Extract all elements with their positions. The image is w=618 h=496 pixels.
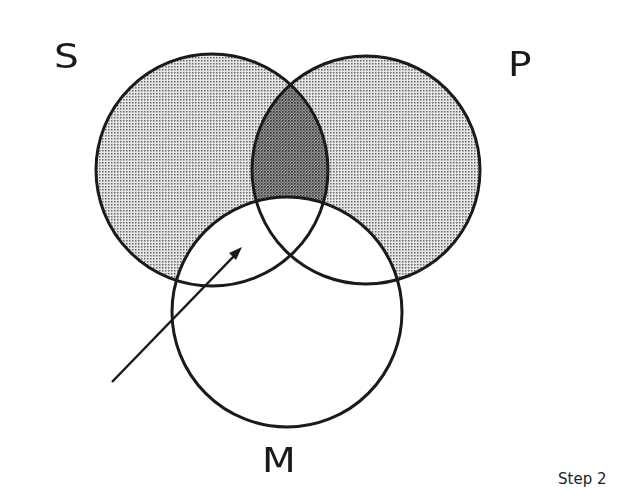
label-p: P (508, 44, 533, 84)
venn-diagram-canvas: S P M Step 2 (0, 0, 618, 496)
label-m: M (262, 440, 297, 480)
step-caption: Step 2 (558, 470, 606, 488)
label-s: S (54, 36, 80, 76)
